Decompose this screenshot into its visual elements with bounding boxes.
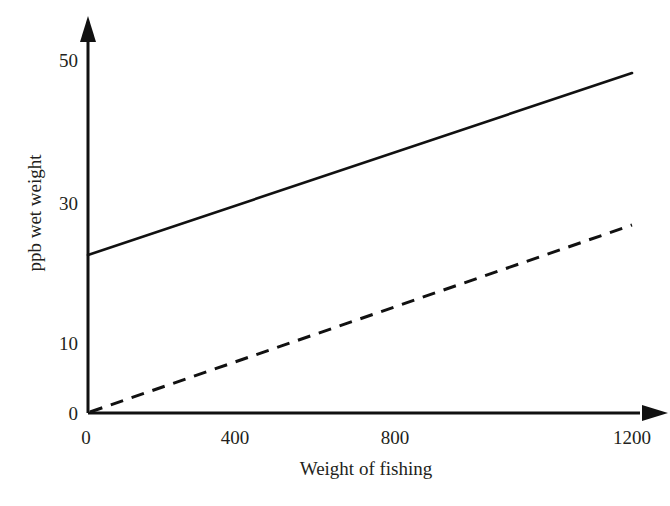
y-tick-label: 30 (59, 193, 78, 214)
dashed-series-line (90, 225, 632, 412)
x-tick-label: 800 (381, 427, 410, 448)
y-tick-label: 0 (69, 403, 79, 424)
x-tick-label: 1200 (613, 427, 651, 448)
y-axis-title: ppb wet weight (24, 154, 45, 272)
solid-series-line (88, 73, 632, 255)
chart: 50 30 10 0 0 400 800 1200 Weight of fish… (0, 0, 670, 506)
y-tick-label: 10 (59, 333, 78, 354)
x-axis-title: Weight of fishing (300, 458, 433, 479)
x-axis-arrow-icon (642, 405, 668, 421)
y-axis-arrow-icon (80, 16, 96, 42)
x-tick-label: 0 (81, 427, 91, 448)
x-tick-label: 400 (221, 427, 250, 448)
y-tick-label: 50 (59, 50, 78, 71)
